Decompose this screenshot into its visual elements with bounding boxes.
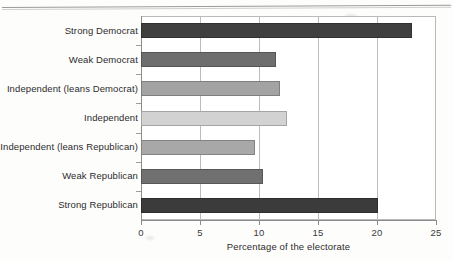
- x-tick-label-20: 20: [372, 227, 383, 238]
- x-tick-0: [141, 220, 142, 225]
- x-tick-5: [200, 220, 201, 225]
- x-axis-line: [141, 220, 437, 221]
- x-axis-title: Percentage of the electorate: [141, 241, 436, 252]
- bar-strong-democrat: [141, 23, 412, 38]
- category-label-weak-democrat: Weak Democrat: [69, 54, 138, 65]
- x-tick-15: [318, 220, 319, 225]
- category-label-independent-leans-republican: Independent (leans Republican): [0, 141, 138, 152]
- x-tick-label-15: 15: [313, 227, 324, 238]
- bar-independent: [141, 111, 287, 126]
- bar-independent-leans-republican: [141, 140, 255, 155]
- category-label-strong-democrat: Strong Democrat: [65, 25, 138, 36]
- category-label-independent: Independent: [84, 112, 138, 123]
- bar-strong-republican: [141, 198, 378, 213]
- x-tick-label-10: 10: [254, 227, 265, 238]
- bar-independent-leans-democrat: [141, 81, 280, 96]
- bar-weak-democrat: [141, 52, 276, 67]
- category-label-strong-republican: Strong Republican: [58, 199, 138, 210]
- x-tick-label-5: 5: [197, 227, 202, 238]
- bar-weak-republican: [141, 169, 263, 184]
- x-tick-20: [377, 220, 378, 225]
- x-tick-label-0: 0: [138, 227, 143, 238]
- x-tick-label-25: 25: [431, 227, 442, 238]
- category-label-independent-leans-democrat: Independent (leans Democrat): [7, 83, 138, 94]
- chart-page: 0510152025 Strong DemocratWeak DemocratI…: [0, 0, 453, 261]
- scan-smudge: [146, 236, 154, 240]
- category-label-weak-republican: Weak Republican: [62, 170, 138, 181]
- bars-group: [141, 16, 436, 220]
- x-tick-10: [259, 220, 260, 225]
- x-tick-25: [436, 220, 437, 225]
